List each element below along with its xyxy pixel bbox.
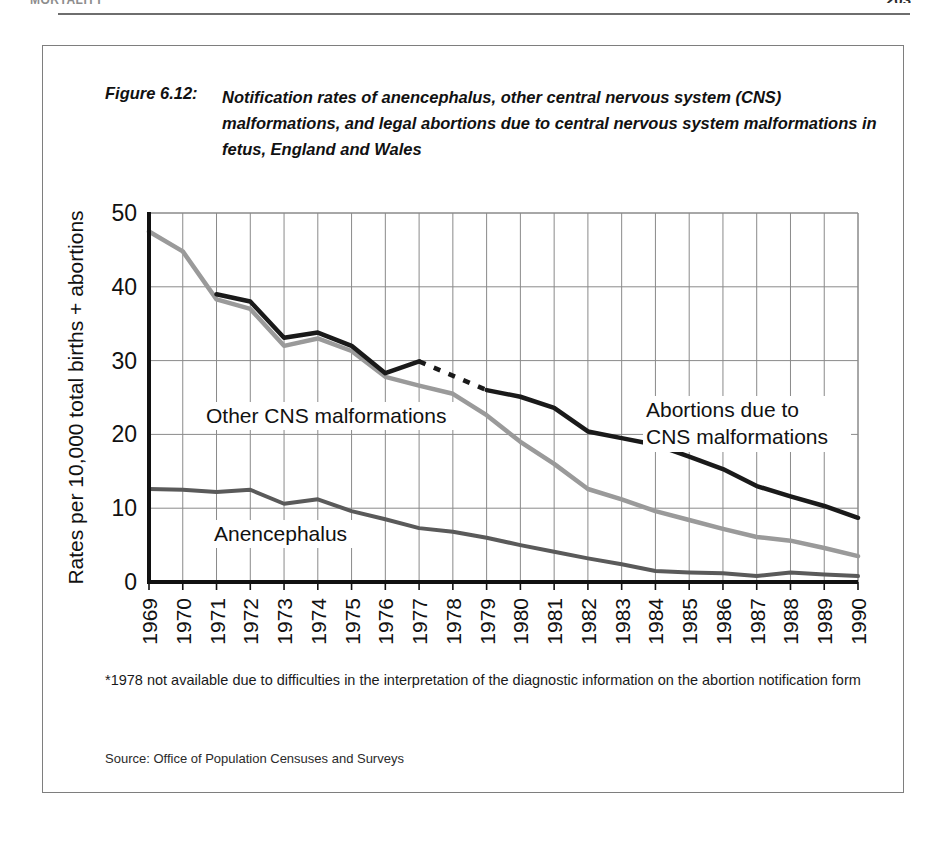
- figure-source: Source: Office of Population Censuses an…: [105, 751, 895, 766]
- figure-container: Figure 6.12: Notification rates of anenc…: [42, 45, 904, 793]
- x-tick-label: 1970: [172, 598, 195, 645]
- y-tick-label: 40: [111, 274, 137, 300]
- x-tick-label: 1990: [847, 598, 870, 645]
- y-tick-label: 50: [111, 200, 137, 226]
- x-tick-label: 1987: [746, 598, 769, 645]
- x-tick-label: 1969: [138, 598, 161, 645]
- annotation-other-cns: Other CNS malformations: [206, 404, 446, 427]
- x-tick-label: 1982: [577, 598, 600, 645]
- y-tick-label: 20: [111, 421, 137, 447]
- y-tick-label: 30: [111, 348, 137, 374]
- x-tick-label: 1984: [644, 598, 667, 645]
- y-axis-title: Rates per 10,000 total births + abortion…: [64, 210, 87, 584]
- x-tick-label: 1975: [341, 598, 364, 645]
- x-tick-label: 1976: [374, 598, 397, 645]
- x-tick-label: 1973: [273, 598, 296, 645]
- x-tick-label: 1981: [543, 598, 566, 645]
- x-tick-label: 1974: [307, 598, 330, 645]
- x-tick-label: 1986: [712, 598, 735, 645]
- x-tick-label: 1977: [408, 598, 431, 645]
- page-number: 203: [886, 0, 911, 3]
- running-head: MORTALITY: [30, 0, 104, 4]
- x-tick-label: 1978: [442, 598, 465, 645]
- x-tick-label: 1983: [611, 598, 634, 645]
- x-tick-label: 1980: [509, 598, 532, 645]
- y-tick-label: 0: [124, 569, 137, 595]
- y-tick-label: 10: [111, 495, 137, 521]
- x-tick-label: 1979: [476, 598, 499, 645]
- annotation-abortions-line2: CNS malformations: [646, 425, 828, 448]
- x-tick-label: 1985: [678, 598, 701, 645]
- x-tick-label: 1971: [206, 598, 229, 645]
- x-tick-label: 1988: [779, 598, 802, 645]
- x-tick-label: 1989: [813, 598, 836, 645]
- annotation-anencephalus: Anencephalus: [214, 522, 347, 545]
- x-tick-label: 1972: [239, 598, 262, 645]
- header-rule: [58, 13, 910, 15]
- page-header: MORTALITY 203: [0, 0, 939, 22]
- figure-footnote: *1978 not available due to difficulties …: [105, 668, 895, 692]
- annotation-abortions-line1: Abortions due to: [646, 398, 799, 421]
